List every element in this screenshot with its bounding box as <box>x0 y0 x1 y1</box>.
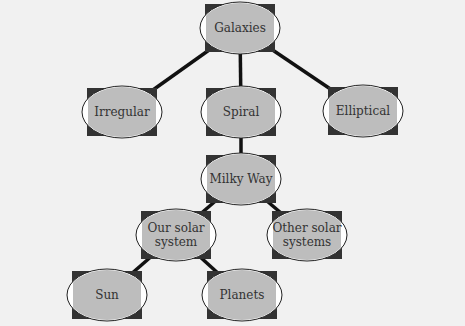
node-label-line: Other solar <box>272 221 341 235</box>
node-label: Planets <box>220 288 265 302</box>
node-label-line: Spiral <box>223 105 260 119</box>
node-other-solar-systems: Other solarsystems <box>267 209 347 261</box>
node-milky-way: Milky Way <box>201 153 281 205</box>
node-label-line: Irregular <box>94 105 150 119</box>
node-label-line: Sun <box>95 288 119 302</box>
node-sun: Sun <box>67 269 147 321</box>
node-label-line: Elliptical <box>336 104 390 118</box>
node-label-line: Milky Way <box>209 172 272 186</box>
node-label-line: systems <box>283 235 332 249</box>
node-label: Milky Way <box>209 172 272 186</box>
node-planets: Planets <box>202 269 282 321</box>
node-irregular: Irregular <box>82 86 162 138</box>
node-label-line: Planets <box>220 288 265 302</box>
nodes: GalaxiesIrregularSpiralEllipticalMilky W… <box>67 2 403 321</box>
node-our-solar-system: Our solarsystem <box>136 209 216 261</box>
node-spiral: Spiral <box>201 86 281 138</box>
node-label-line: system <box>155 235 198 249</box>
node-label: Our solarsystem <box>147 221 204 249</box>
node-label-line: Galaxies <box>214 21 266 35</box>
node-label-line: Our solar <box>147 221 204 235</box>
node-galaxies: Galaxies <box>200 2 280 54</box>
node-elliptical: Elliptical <box>323 85 403 137</box>
node-label: Galaxies <box>214 21 266 35</box>
node-label: Sun <box>95 288 119 302</box>
concept-map: GalaxiesIrregularSpiralEllipticalMilky W… <box>0 0 465 326</box>
node-label: Spiral <box>223 105 260 119</box>
node-label: Elliptical <box>336 104 390 118</box>
node-label: Irregular <box>94 105 150 119</box>
